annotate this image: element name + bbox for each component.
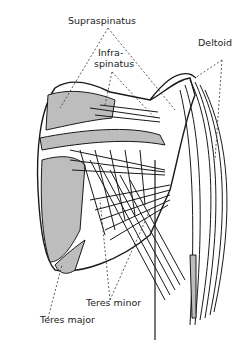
label-teres-minor: Teres minor [86,297,141,308]
label-infraspinatus-line2: spinatus [94,58,134,69]
label-deltoid: Deltoid [198,37,232,48]
label-supraspinatus: Supraspinatus [68,15,136,26]
label-infraspinatus-line1: Infra- [98,47,123,58]
label-teres-major: Teres major [40,314,95,325]
